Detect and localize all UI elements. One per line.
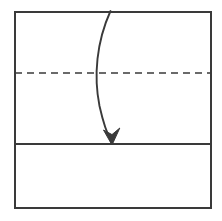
paper-sheet bbox=[15, 12, 211, 208]
fold-diagram-svg bbox=[0, 0, 222, 221]
fold-diagram-container bbox=[0, 0, 222, 221]
